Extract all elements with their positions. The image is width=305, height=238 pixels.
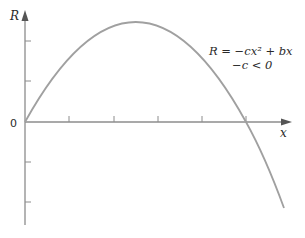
- condition-annotation: −c < 0: [232, 58, 272, 72]
- y-axis-arrow-icon: [22, 10, 29, 21]
- equation-annotation: R = −cx² + bx: [208, 44, 293, 58]
- y-axis-label: R: [9, 9, 19, 23]
- origin-label: 0: [10, 117, 17, 130]
- x-axis-label: x: [280, 126, 287, 140]
- x-ticks: [69, 116, 246, 122]
- x-axis-arrow-icon: [281, 119, 292, 126]
- chart-canvas: R x 0 R = −cx² + bx −c < 0: [0, 0, 305, 238]
